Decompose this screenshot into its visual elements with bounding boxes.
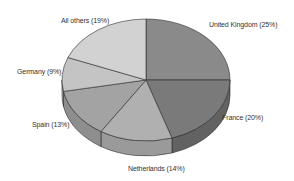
label-france: France (20%) [222, 114, 263, 122]
pie-tops [62, 19, 230, 141]
label-germany: Germany (9%) [17, 68, 61, 76]
label-united-kingdom: United Kingdom (25%) [209, 21, 277, 29]
label-netherlands: Netherlands (14%) [128, 165, 185, 173]
label-all-others: All others (19%) [61, 17, 109, 25]
label-spain: Spain (13%) [32, 121, 69, 129]
